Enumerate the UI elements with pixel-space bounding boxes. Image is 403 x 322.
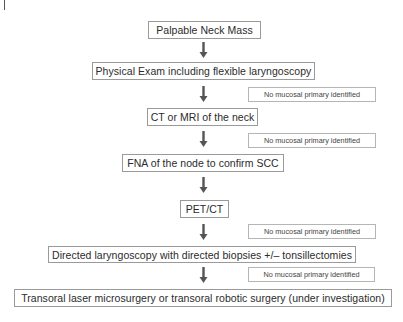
down-arrow-icon xyxy=(199,267,208,283)
note-no-mucosal-primary-4: No mucosal primary identified xyxy=(248,267,375,282)
down-arrow-icon xyxy=(199,86,208,102)
step-label: Transoral laser microsurgery or transora… xyxy=(21,292,385,304)
step-fna-of-node: FNA of the node to confirm SCC xyxy=(122,154,284,172)
down-arrow-icon xyxy=(199,177,208,193)
step-label: FNA of the node to confirm SCC xyxy=(127,157,278,169)
step-directed-laryngoscopy: Directed laryngoscopy with directed biop… xyxy=(48,246,356,263)
step-label: PET/CT xyxy=(186,203,224,215)
note-no-mucosal-primary-3: No mucosal primary identified xyxy=(248,224,376,239)
step-ct-or-mri: CT or MRI of the neck xyxy=(147,108,258,126)
note-label: No mucosal primary identified xyxy=(264,136,360,145)
down-arrow-icon xyxy=(199,131,208,147)
step-pet-ct: PET/CT xyxy=(180,200,229,218)
step-physical-exam: Physical Exam including flexible laryngo… xyxy=(92,62,315,80)
note-label: No mucosal primary identified xyxy=(264,227,360,236)
step-transoral-surgery: Transoral laser microsurgery or transora… xyxy=(14,289,392,307)
step-label: CT or MRI of the neck xyxy=(151,111,255,123)
step-palpable-neck-mass: Palpable Neck Mass xyxy=(148,21,261,39)
down-arrow-icon xyxy=(199,224,208,240)
corner-mark xyxy=(4,0,5,10)
note-no-mucosal-primary-2: No mucosal primary identified xyxy=(248,133,376,148)
down-arrow-icon xyxy=(199,42,208,58)
step-label: Directed laryngoscopy with directed biop… xyxy=(52,249,352,261)
note-label: No mucosal primary identified xyxy=(263,270,359,279)
note-label: No mucosal primary identified xyxy=(264,90,360,99)
note-no-mucosal-primary-1: No mucosal primary identified xyxy=(248,87,376,102)
step-label: Palpable Neck Mass xyxy=(156,24,253,36)
step-label: Physical Exam including flexible laryngo… xyxy=(96,65,312,77)
